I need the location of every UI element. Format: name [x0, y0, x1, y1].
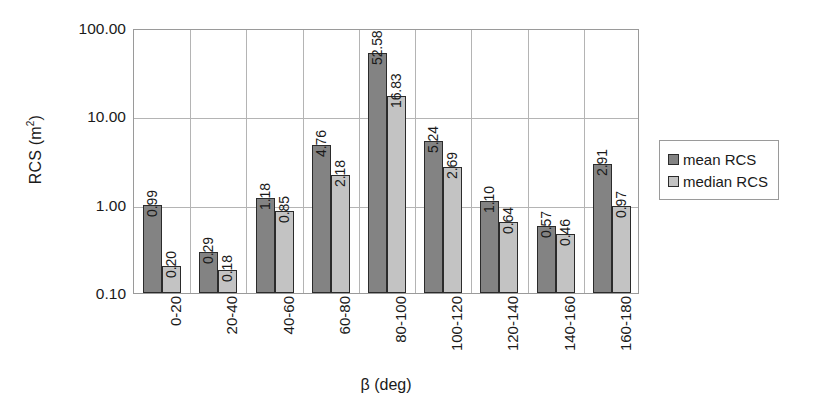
bar-value-label: 0.57 [539, 211, 553, 238]
y-axis-tick-label: 0.10 [38, 286, 126, 301]
bar-median-rcs[interactable] [612, 206, 631, 293]
bar-value-label: 2.18 [333, 160, 347, 187]
y-axis-tick-label: 100.00 [38, 21, 126, 36]
y-axis-tick-label: 10.00 [38, 109, 126, 124]
bar-value-label: 0.20 [164, 252, 178, 279]
y-axis-title-superscript: 2 [25, 121, 36, 127]
bar-group: 2.910.97 [584, 30, 640, 293]
bar-mean-rcs[interactable] [593, 164, 612, 293]
bar-value-label: 2.69 [445, 152, 459, 179]
bar-mean-rcs[interactable] [256, 198, 275, 293]
x-axis-tick-label: 60-80 [337, 296, 352, 334]
legend-swatch-mean [668, 154, 679, 165]
bar-mean-rcs[interactable] [424, 141, 443, 293]
bar-median-rcs[interactable] [443, 167, 462, 293]
legend-item[interactable]: median RCS [668, 170, 768, 192]
bar-mean-rcs[interactable] [368, 53, 387, 293]
bar-value-label: 16.83 [389, 74, 403, 109]
x-axis-tick-label: 20-40 [224, 296, 239, 334]
bar-mean-rcs[interactable] [480, 201, 499, 293]
bar-value-label: 0.64 [501, 207, 515, 234]
bar-value-label: 0.85 [277, 196, 291, 223]
x-axis-tick-label: 0-20 [168, 296, 183, 326]
y-axis-tick-label: 1.00 [38, 198, 126, 213]
x-axis-tick-label: 160-180 [618, 296, 633, 351]
legend-swatch-median [668, 176, 679, 187]
bar-value-label: 2.91 [595, 149, 609, 176]
x-axis-title: β (deg) [133, 376, 639, 394]
bar-group: 52.5816.83 [359, 30, 415, 293]
bar-mean-rcs[interactable] [312, 145, 331, 293]
x-axis-tick-labels: 0-2020-4040-6060-8080-100100-120120-1401… [133, 296, 639, 376]
rcs-bar-chart: RCS (m2) 100.0010.001.000.10 0.990.200.2… [0, 0, 829, 409]
bar-median-rcs[interactable] [387, 96, 406, 293]
bar-group: 0.990.20 [134, 30, 190, 293]
bar-group: 0.290.18 [190, 30, 246, 293]
bar-median-rcs[interactable] [275, 211, 294, 293]
y-axis-tick-labels: 100.0010.001.000.10 [38, 0, 126, 409]
legend-label: median RCS [683, 174, 768, 189]
bar-value-label: 5.24 [426, 126, 440, 153]
bar-mean-rcs[interactable] [143, 205, 162, 293]
bar-value-label: 0.29 [201, 237, 215, 264]
x-axis-tick-label: 40-60 [281, 296, 296, 334]
bar-group: 1.180.85 [246, 30, 302, 293]
bar-median-rcs[interactable] [331, 175, 350, 293]
bar-value-label: 0.99 [145, 190, 159, 217]
bar-group: 4.762.18 [303, 30, 359, 293]
legend-item[interactable]: mean RCS [668, 148, 768, 170]
legend-label: mean RCS [683, 152, 756, 167]
x-axis-tick-label: 100-120 [449, 296, 464, 351]
bar-value-label: 0.97 [614, 191, 628, 218]
plot-area: 0.990.200.290.181.180.854.762.1852.5816.… [133, 29, 639, 294]
x-axis-tick-label: 120-140 [505, 296, 520, 351]
bar-group: 1.100.64 [471, 30, 527, 293]
bar-value-label: 0.46 [558, 220, 572, 247]
bar-value-label: 52.58 [370, 30, 384, 65]
bar-value-label: 4.76 [314, 130, 328, 157]
x-axis-tick-label: 140-160 [562, 296, 577, 351]
x-axis-tick-label: 80-100 [393, 296, 408, 343]
bar-value-label: 1.18 [258, 183, 272, 210]
chart-legend: mean RCSmedian RCS [659, 140, 779, 200]
bar-value-label: 1.10 [482, 186, 496, 213]
bar-group: 0.570.46 [528, 30, 584, 293]
bar-group: 5.242.69 [415, 30, 471, 293]
bar-value-label: 0.18 [220, 256, 234, 283]
